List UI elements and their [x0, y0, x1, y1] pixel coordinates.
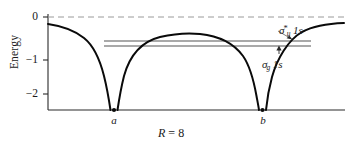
y-tick-label-minus-2: −2: [14, 87, 38, 99]
potential-curve-middle-branch: [118, 34, 260, 110]
y-tick-label-minus-1: −1: [14, 53, 38, 65]
energy-diagram-figure: Energy 0 −1 −2 a b R = 8 σ*u1s σg1s: [0, 0, 351, 146]
y-axis-title: Energy: [8, 22, 20, 82]
nucleus-marker-a: [112, 108, 116, 112]
orbital-label-sigma-u-star-1s: σ*u1s: [279, 24, 303, 37]
u-subscript: u: [287, 29, 291, 38]
orbital-1s-label-lower: 1s: [273, 58, 283, 70]
orbital-1s-label-upper: 1s: [293, 24, 303, 36]
site-label-b: b: [255, 114, 271, 126]
y-tick-label-0: 0: [14, 10, 38, 22]
site-label-a: a: [106, 114, 122, 126]
orbital-label-sigma-g-1s: σg1s: [262, 59, 282, 71]
potential-curve-left-branch: [48, 24, 111, 110]
nucleus-marker-b: [260, 108, 264, 112]
caption-equals: =: [165, 126, 178, 140]
potential-energy-plot: [0, 0, 351, 146]
figure-caption: R = 8: [158, 126, 184, 141]
caption-value: 8: [178, 126, 184, 140]
g-subscript: g: [266, 63, 270, 72]
